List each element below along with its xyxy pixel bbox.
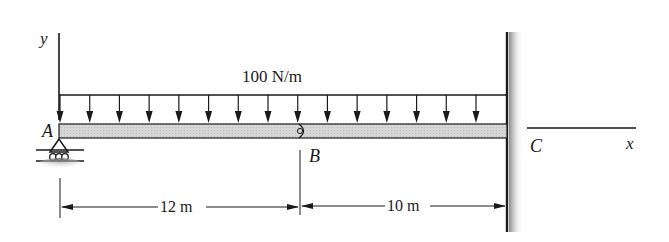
load-arrow-icon <box>473 95 480 123</box>
load-arrowhead <box>473 111 480 123</box>
arrowhead-icon <box>61 204 73 210</box>
roller-support-a <box>36 139 84 174</box>
load-arrowhead <box>86 111 93 123</box>
load-arrow-icon <box>175 95 182 123</box>
load-arrowhead <box>146 111 153 123</box>
load-arrowhead <box>443 111 450 123</box>
load-arrow-icon <box>324 95 331 123</box>
dim-label-ab: 12 m <box>160 198 193 215</box>
load-arrowhead <box>413 111 420 123</box>
load-arrow-icon <box>443 95 450 123</box>
arrowhead-icon <box>287 204 299 210</box>
ground-shading <box>36 158 84 174</box>
load-arrowhead <box>383 111 390 123</box>
load-arrowhead <box>294 111 301 123</box>
beam-diagram: y 100 N/m A B C x <box>0 0 669 242</box>
y-axis-label: y <box>38 29 48 48</box>
dim-label-bc: 10 m <box>387 197 420 214</box>
load-arrow-icon <box>86 95 93 123</box>
load-arrowhead <box>265 111 272 123</box>
load-arrow-icon <box>294 95 301 123</box>
arrowhead-icon <box>494 203 506 209</box>
load-arrow-icon <box>413 95 420 123</box>
load-arrowhead <box>205 111 212 123</box>
load-arrow-icon <box>383 95 390 123</box>
fixed-wall-c <box>507 32 523 232</box>
load-arrow-icon <box>116 95 123 123</box>
load-arrowhead <box>57 111 64 123</box>
beam <box>59 124 507 138</box>
load-arrowhead <box>175 111 182 123</box>
load-arrows <box>57 95 480 123</box>
load-arrowhead <box>235 111 242 123</box>
x-axis: x <box>527 128 636 153</box>
load-arrow-icon <box>205 95 212 123</box>
load-arrow-icon <box>265 95 272 123</box>
load-arrow-icon <box>235 95 242 123</box>
load-arrow-icon <box>146 95 153 123</box>
load-label: 100 N/m <box>242 67 302 86</box>
load-arrow-icon <box>57 95 64 123</box>
point-a-label: A <box>41 121 54 141</box>
x-axis-label: x <box>625 134 634 153</box>
load-arrowhead <box>354 111 361 123</box>
load-arrow-icon <box>354 95 361 123</box>
load-arrowhead <box>116 111 123 123</box>
load-arrowhead <box>324 111 331 123</box>
dimensions: 12 m 10 m <box>60 150 506 218</box>
beam-body <box>59 124 507 138</box>
distributed-load: 100 N/m <box>57 67 508 123</box>
point-c-label: C <box>530 136 543 156</box>
arrowhead-icon <box>301 203 313 209</box>
y-axis: y <box>38 29 59 120</box>
wall-shading <box>509 32 523 232</box>
point-b-label: B <box>309 146 320 166</box>
